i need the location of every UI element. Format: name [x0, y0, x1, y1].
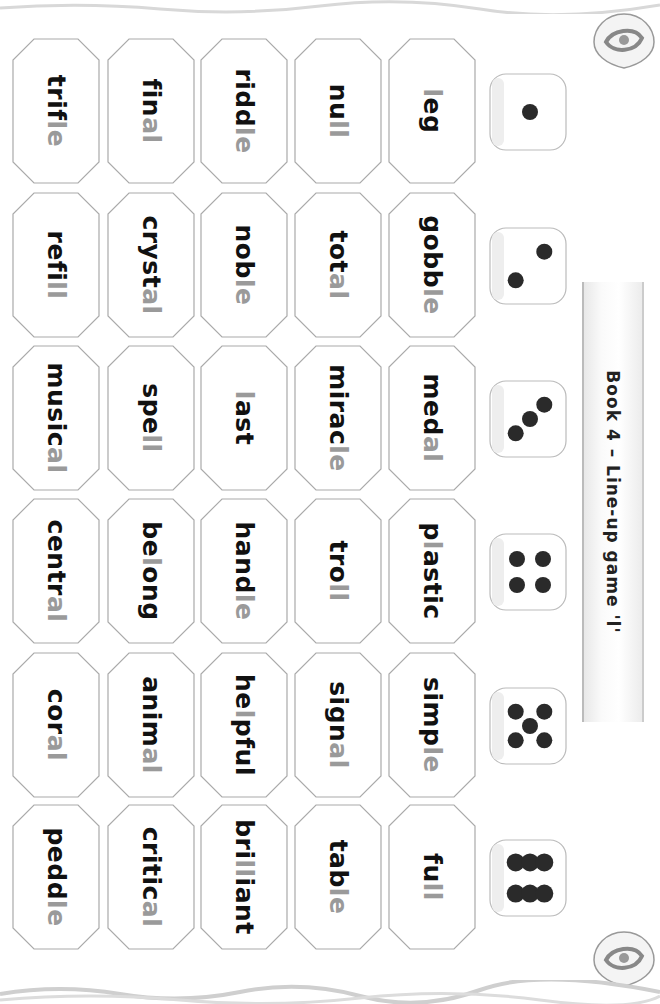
word-card[interactable]: full: [388, 804, 476, 950]
highlighted-letters: al: [418, 436, 447, 462]
word-card[interactable]: troll: [294, 498, 382, 644]
word-card[interactable]: musical: [12, 345, 100, 491]
highlighted-letters: al: [137, 117, 166, 143]
page-title: Book 4 – Line-up game 'l': [603, 370, 623, 633]
word-card[interactable]: refill: [12, 192, 100, 338]
word-card[interactable]: spell: [107, 345, 195, 491]
word-text: signal: [324, 681, 353, 769]
highlighted-letters: ll: [42, 281, 71, 299]
word-card[interactable]: last: [200, 345, 288, 491]
highlighted-letters: al: [42, 447, 71, 473]
word-card[interactable]: brilliant: [200, 804, 288, 950]
word-card[interactable]: noble: [200, 192, 288, 338]
word-text: helpful: [230, 674, 259, 776]
highlighted-letters: al: [42, 735, 71, 761]
word-text: refill: [42, 231, 71, 300]
highlighted-letters: le: [230, 127, 259, 154]
word-part: med: [418, 374, 447, 436]
word-card[interactable]: signal: [294, 652, 382, 798]
highlighted-letters: l: [418, 89, 447, 98]
word-card[interactable]: crystal: [107, 192, 195, 338]
highlighted-letters: ll: [418, 883, 447, 901]
word-card[interactable]: final: [107, 38, 195, 184]
word-card[interactable]: gobble: [388, 192, 476, 338]
word-text: table: [324, 840, 353, 915]
highlighted-letters: le: [42, 121, 71, 148]
word-card[interactable]: belong: [107, 498, 195, 644]
word-card[interactable]: critical: [107, 804, 195, 950]
die-1-icon: [486, 70, 570, 154]
highlighted-letters: ll: [230, 859, 259, 877]
word-card[interactable]: central: [12, 498, 100, 644]
word-card[interactable]: trifle: [12, 38, 100, 184]
word-part: pful: [230, 719, 259, 776]
word-part: nu: [324, 84, 353, 121]
word-part: iant: [230, 878, 259, 935]
word-part: mirac: [324, 364, 353, 445]
word-card[interactable]: leg: [388, 38, 476, 184]
word-text: trifle: [42, 75, 71, 147]
word-card[interactable]: miracle: [294, 345, 382, 491]
word-part: he: [230, 674, 259, 710]
word-part: music: [42, 362, 71, 447]
word-text: total: [324, 230, 353, 299]
word-card[interactable]: total: [294, 192, 382, 338]
highlighted-letters: al: [137, 901, 166, 927]
word-text: animal: [137, 676, 166, 774]
word-card[interactable]: simple: [388, 652, 476, 798]
word-part: trif: [42, 75, 71, 121]
word-text: central: [42, 520, 71, 623]
highlighted-letters: al: [42, 596, 71, 622]
word-text: belong: [137, 521, 166, 620]
word-part: sign: [324, 681, 353, 742]
word-card[interactable]: handle: [200, 498, 288, 644]
word-text: crystal: [137, 215, 166, 314]
word-part: fin: [137, 78, 166, 117]
word-text: final: [137, 78, 166, 143]
highlighted-letters: le: [324, 445, 353, 472]
word-card[interactable]: peddle: [12, 804, 100, 950]
word-part: cor: [42, 689, 71, 735]
word-card[interactable]: null: [294, 38, 382, 184]
highlighted-letters: l: [230, 391, 259, 400]
die-5-icon: [486, 684, 570, 768]
word-part: ong: [137, 566, 166, 620]
highlighted-letters: ll: [324, 120, 353, 138]
word-part: spe: [137, 383, 166, 434]
word-part: be: [137, 521, 166, 557]
word-card[interactable]: riddle: [200, 38, 288, 184]
highlighted-letters: ll: [137, 435, 166, 453]
word-text: leg: [418, 89, 447, 134]
word-text: coral: [42, 689, 71, 761]
highlighted-letters: le: [230, 594, 259, 621]
word-text: miracle: [324, 364, 353, 472]
word-text: gobble: [418, 215, 447, 314]
word-text: null: [324, 84, 353, 139]
highlighted-letters: le: [230, 279, 259, 306]
word-part: tot: [324, 230, 353, 273]
word-part: ridd: [230, 68, 259, 127]
word-text: musical: [42, 362, 71, 473]
word-part: bri: [230, 819, 259, 859]
word-card[interactable]: medal: [388, 345, 476, 491]
word-part: eg: [418, 98, 447, 134]
word-card[interactable]: table: [294, 804, 382, 950]
word-card[interactable]: coral: [12, 652, 100, 798]
highlighted-letters: le: [324, 888, 353, 915]
word-part: ast: [230, 400, 259, 445]
word-card[interactable]: helpful: [200, 652, 288, 798]
word-text: handle: [230, 522, 259, 621]
word-card[interactable]: plastic: [388, 498, 476, 644]
word-part: nob: [230, 225, 259, 279]
word-part: hand: [230, 522, 259, 594]
word-text: troll: [324, 540, 353, 601]
highlighted-letters: le: [418, 288, 447, 315]
highlighted-letters: le: [418, 746, 447, 773]
word-part: refi: [42, 231, 71, 282]
word-card[interactable]: animal: [107, 652, 195, 798]
word-part: cryst: [137, 215, 166, 288]
die-6-icon: [486, 836, 570, 920]
highlighted-letters: al: [324, 273, 353, 299]
word-text: full: [418, 853, 447, 901]
word-part: pedd: [42, 827, 71, 900]
